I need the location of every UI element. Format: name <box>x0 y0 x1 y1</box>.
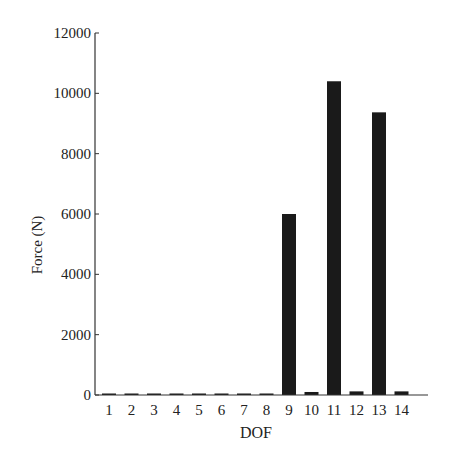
x-axis: 1234567891011121314 <box>95 395 428 418</box>
y-tick-label: 10000 <box>54 85 92 101</box>
y-tick-label: 12000 <box>54 25 92 41</box>
y-axis: 020004000600080001000012000 <box>54 25 100 403</box>
bar-11 <box>327 81 341 395</box>
x-tick-label: 5 <box>195 402 203 418</box>
y-tick-label: 6000 <box>61 206 91 222</box>
y-axis-label: Force (N) <box>29 216 46 275</box>
x-tick-label: 3 <box>150 402 158 418</box>
x-tick-label: 12 <box>349 402 364 418</box>
x-tick-label: 11 <box>327 402 341 418</box>
bar-chart: 020004000600080001000012000 123456789101… <box>0 0 457 453</box>
x-tick-label: 4 <box>173 402 181 418</box>
x-tick-label: 8 <box>263 402 271 418</box>
x-tick-label: 1 <box>105 402 113 418</box>
x-tick-label: 2 <box>128 402 136 418</box>
y-tick-label: 4000 <box>61 266 91 282</box>
y-tick-label: 8000 <box>61 146 91 162</box>
bars <box>102 81 409 395</box>
x-tick-label: 14 <box>394 402 410 418</box>
x-tick-label: 9 <box>285 402 293 418</box>
x-tick-label: 13 <box>372 402 387 418</box>
x-axis-label: DOF <box>240 424 272 441</box>
y-tick-label: 0 <box>84 387 92 403</box>
bar-13 <box>372 112 386 395</box>
x-tick-label: 6 <box>218 402 226 418</box>
x-tick-label: 10 <box>304 402 319 418</box>
bar-9 <box>282 214 296 395</box>
y-tick-label: 2000 <box>61 327 91 343</box>
x-tick-label: 7 <box>240 402 248 418</box>
